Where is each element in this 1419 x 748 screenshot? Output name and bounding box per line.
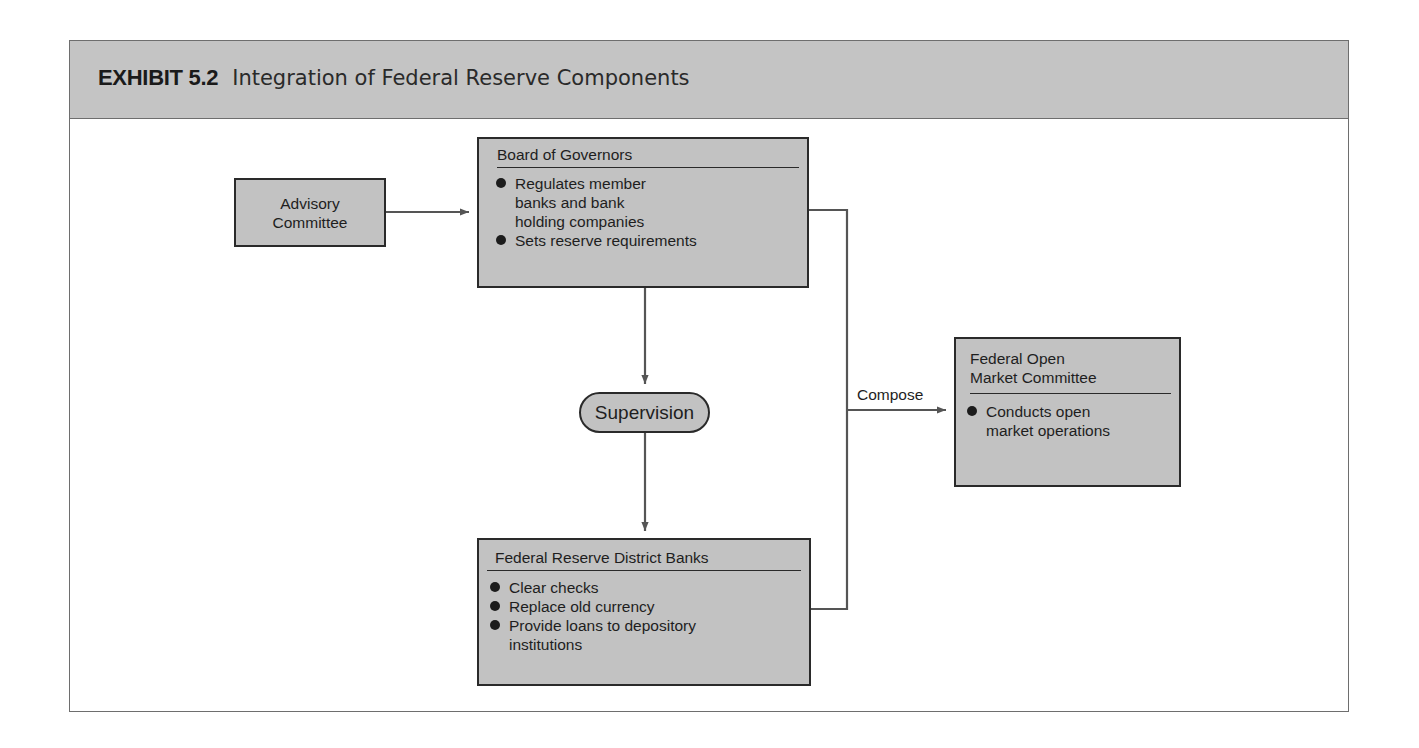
board-bullets: Regulates member banks and bank holding … [479, 174, 807, 250]
board-title: Board of Governors [497, 145, 799, 168]
district-bullet-1: Clear checks [487, 578, 801, 597]
board-of-governors-node: Board of Governors Regulates member bank… [477, 137, 809, 288]
fomc-node: Federal Open Market Committee Conducts o… [954, 337, 1181, 487]
board-bullet-1: Regulates member banks and bank holding … [493, 174, 799, 231]
district-bullet-2: Replace old currency [487, 597, 801, 616]
bullet-dot-icon [496, 235, 506, 245]
exhibit-title: Integration of Federal Reserve Component… [232, 66, 689, 90]
exhibit-label: EXHIBIT 5.2 [98, 65, 218, 90]
supervision-label: Supervision [595, 402, 694, 424]
compose-label: Compose [857, 386, 923, 404]
advisory-committee-node: Advisory Committee [234, 178, 386, 247]
board-bullet-2: Sets reserve requirements [493, 231, 799, 250]
bullet-dot-icon [490, 582, 500, 592]
supervision-node: Supervision [579, 392, 710, 433]
advisory-line-1: Advisory [273, 194, 348, 213]
bullet-dot-icon [496, 178, 506, 188]
district-bullets: Clear checks Replace old currency Provid… [479, 578, 809, 654]
fomc-bullets: Conducts open market operations [956, 402, 1179, 440]
exhibit-heading: EXHIBIT 5.2Integration of Federal Reserv… [98, 63, 690, 93]
bullet-dot-icon [490, 601, 500, 611]
exhibit-header: EXHIBIT 5.2Integration of Federal Reserv… [70, 41, 1348, 119]
bullet-dot-icon [490, 620, 500, 630]
fomc-title: Federal Open Market Committee [970, 349, 1171, 394]
bullet-dot-icon [967, 406, 977, 416]
district-title: Federal Reserve District Banks [487, 548, 801, 571]
fomc-bullet-1: Conducts open market operations [964, 402, 1171, 440]
district-banks-node: Federal Reserve District Banks Clear che… [477, 538, 811, 686]
district-bullet-3: Provide loans to depository institutions [487, 616, 801, 654]
advisory-line-2: Committee [273, 213, 348, 232]
